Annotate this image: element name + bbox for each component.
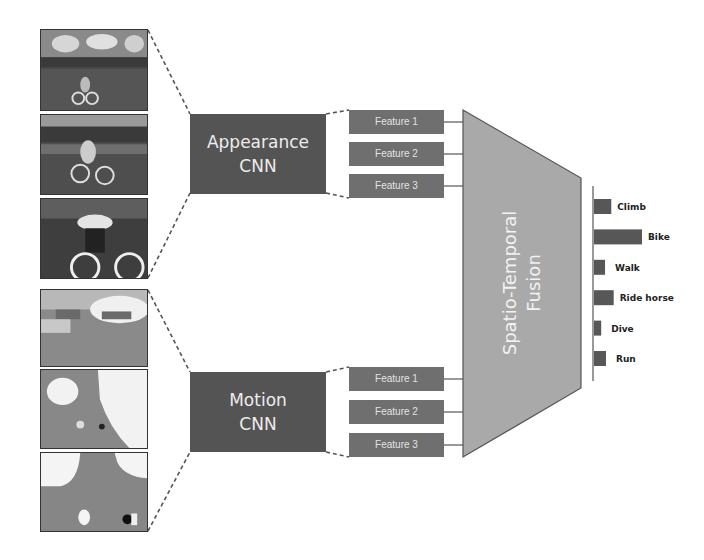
appearance-feature-2: Feature 2 [349, 142, 444, 166]
motion-feature-connector-top [326, 367, 349, 372]
fusion-label-line2: Fusion [522, 211, 546, 356]
output-bar-dive [594, 321, 601, 336]
rgb-frame [40, 29, 148, 111]
output-bar-climb [594, 199, 611, 214]
output-bar-walk [594, 260, 605, 275]
motion-cnn-label-line1: Motion [229, 388, 287, 412]
output-bar-bike [594, 229, 642, 244]
flow-frame [40, 452, 148, 532]
motion-feature-connector-bottom [326, 452, 349, 457]
output-bar-ride-horse [594, 290, 614, 305]
output-label-ride-horse: Ride horse [620, 292, 674, 304]
appearance-connector-top [148, 30, 190, 114]
rgb-frame [40, 198, 148, 279]
flow-frame [40, 289, 148, 367]
appearance-feature-1: Feature 1 [349, 110, 444, 134]
rgb-frame [40, 114, 148, 195]
output-label-walk: Walk [615, 262, 640, 274]
appearance-feature-3: Feature 3 [349, 174, 444, 198]
motion-cnn-label-line2: CNN [239, 412, 276, 436]
output-label-bike: Bike [648, 231, 670, 243]
appearance-feature-connector-bottom [326, 193, 349, 198]
motion-feature-3: Feature 3 [349, 433, 444, 457]
output-bar-run [594, 351, 606, 366]
motion-feature-1: Feature 1 [349, 367, 444, 391]
output-label-run: Run [616, 353, 636, 365]
motion-cnn-block: Motion CNN [190, 372, 326, 452]
appearance-cnn-label-line1: Appearance [207, 130, 309, 154]
fusion-label-line1: Spatio-Temporal [498, 211, 522, 356]
appearance-cnn-block: Appearance CNN [190, 114, 326, 194]
appearance-connector-bottom [148, 193, 190, 278]
appearance-feature-connector-top [326, 110, 349, 114]
appearance-cnn-label-line2: CNN [239, 154, 276, 178]
output-label-dive: Dive [611, 323, 634, 335]
motion-feature-2: Feature 2 [349, 400, 444, 424]
motion-connector-top [148, 290, 190, 372]
motion-connector-bottom [148, 452, 190, 531]
output-label-climb: Climb [617, 201, 646, 213]
flow-frame [40, 369, 148, 449]
